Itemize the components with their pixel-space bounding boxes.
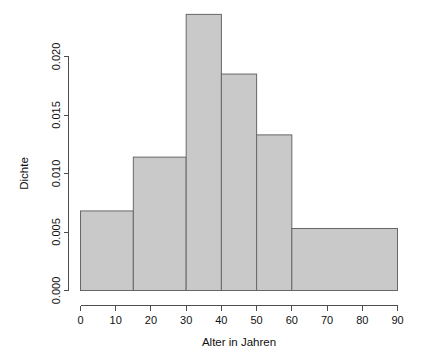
x-tick-label-0: 0: [77, 314, 83, 326]
x-tick-label-20: 20: [145, 314, 157, 326]
bars-group: [81, 14, 398, 290]
x-tick-label-30: 30: [180, 314, 192, 326]
y-axis-title: Dichte: [18, 157, 30, 190]
y-tick-label-0.005: 0.005: [50, 218, 62, 246]
x-tick-label-60: 60: [286, 314, 298, 326]
x-tick-label-70: 70: [321, 314, 333, 326]
x-axis: 0102030405060708090: [77, 306, 403, 326]
x-tick-label-10: 10: [110, 314, 122, 326]
histogram-bar-40-50: [221, 74, 256, 290]
x-axis-title: Alter in Jahren: [202, 336, 276, 348]
histogram-bar-60-90: [292, 228, 398, 290]
histogram-bar-30-40: [186, 14, 221, 290]
y-tick-label-0.010: 0.010: [50, 160, 62, 188]
x-tick-label-90: 90: [391, 314, 403, 326]
y-tick-label-0.015: 0.015: [50, 101, 62, 129]
x-tick-label-40: 40: [215, 314, 227, 326]
histogram-bar-50-60: [257, 135, 292, 291]
histogram-bar-15-30: [133, 157, 186, 290]
y-axis: 0.0000.0050.0100.0150.020: [50, 43, 69, 305]
x-tick-label-80: 80: [356, 314, 368, 326]
histogram-plot: 0.0000.0050.0100.0150.020Dichte010203040…: [0, 0, 430, 364]
y-tick-label-0.000: 0.000: [50, 277, 62, 305]
x-tick-label-50: 50: [250, 314, 262, 326]
histogram-canvas: 0.0000.0050.0100.0150.020Dichte010203040…: [0, 0, 430, 364]
y-tick-label-0.020: 0.020: [50, 43, 62, 71]
histogram-bar-0-15: [81, 211, 134, 291]
